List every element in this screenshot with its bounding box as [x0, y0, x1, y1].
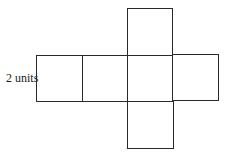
net-face-center: [128, 56, 173, 102]
net-face-top: [128, 9, 173, 56]
net-face-center-left: [83, 56, 128, 102]
net-face-bottom: [128, 102, 174, 149]
net-face-left: [37, 56, 83, 102]
side-length-label: 2 units: [6, 72, 38, 84]
net-face-right: [173, 55, 219, 101]
